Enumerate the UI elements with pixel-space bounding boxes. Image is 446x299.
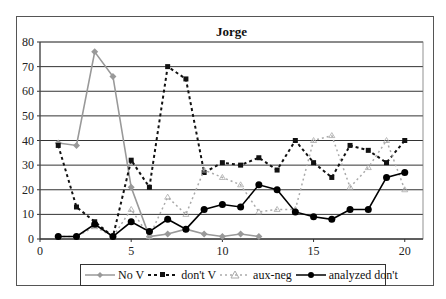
data-point-circle (109, 233, 116, 240)
legend-label: don't V (181, 268, 216, 283)
data-point-square (402, 138, 407, 143)
data-point-circle (164, 216, 171, 223)
data-point-diamond (164, 231, 171, 238)
black-circle-line-icon (296, 270, 326, 280)
data-point-circle (255, 181, 262, 188)
data-point-diamond (73, 142, 80, 149)
data-point-triangle (165, 194, 171, 199)
black-square-dashed-icon (148, 270, 178, 280)
data-point-circle (328, 216, 335, 223)
data-point-square (293, 138, 298, 143)
data-point-square (329, 175, 334, 180)
x-tick-label: 20 (399, 244, 411, 258)
chart-title: Jorge (216, 24, 247, 39)
data-point-circle (55, 233, 62, 240)
legend-label: No V (118, 268, 144, 283)
legend-item-aux-neg: aux-neg (220, 268, 292, 283)
x-tick-label: 5 (128, 244, 134, 258)
data-point-square (165, 64, 170, 69)
data-point-square (220, 160, 225, 165)
data-point-circle (237, 203, 244, 210)
line-chart: Jorge0102030405060708005101520 (0, 0, 446, 299)
y-tick-label: 20 (22, 183, 34, 197)
data-point-circle (401, 169, 408, 176)
data-point-square (129, 158, 134, 163)
data-point-circle (383, 174, 390, 181)
data-point-circle (182, 226, 189, 233)
data-point-circle (73, 233, 80, 240)
series-line (58, 136, 405, 237)
x-tick-label: 15 (308, 244, 320, 258)
y-tick-label: 10 (22, 207, 34, 221)
gray-triangle-dotted-icon (220, 270, 250, 280)
legend-item-no-v: No V (85, 268, 144, 283)
data-point-circle (201, 206, 208, 213)
data-point-circle (91, 221, 98, 228)
y-tick-label: 50 (22, 109, 34, 123)
data-point-circle (347, 206, 354, 213)
data-point-square (238, 163, 243, 168)
data-point-square (311, 160, 316, 165)
data-point-circle (365, 206, 372, 213)
data-point-square (183, 76, 188, 81)
y-tick-label: 70 (22, 60, 34, 74)
data-point-square (348, 143, 353, 148)
legend-label: aux-neg (253, 268, 292, 283)
y-tick-label: 40 (22, 134, 34, 148)
legend-item-dont-v: don't V (148, 268, 216, 283)
data-point-circle (310, 213, 317, 220)
x-tick-label: 10 (216, 244, 228, 258)
legend-label: analyzed don't (329, 268, 398, 283)
x-tick-label: 0 (37, 244, 43, 258)
series-line (58, 52, 259, 237)
data-point-square (275, 168, 280, 173)
chart-legend: No V don't V aux-neg analyzed don't (80, 264, 386, 286)
data-point-diamond (237, 231, 244, 238)
y-tick-label: 60 (22, 84, 34, 98)
y-tick-label: 30 (22, 158, 34, 172)
data-point-circle (274, 186, 281, 193)
data-point-diamond (201, 231, 208, 238)
data-point-square (74, 204, 79, 209)
legend-item-analyzed-dont: analyzed don't (296, 268, 398, 283)
gray-diamond-line-icon (85, 270, 115, 280)
data-point-square (56, 143, 61, 148)
data-point-square (256, 155, 261, 160)
y-tick-label: 80 (22, 35, 34, 49)
data-point-square (366, 148, 371, 153)
data-point-circle (146, 228, 153, 235)
data-point-square (147, 185, 152, 190)
data-point-circle (292, 208, 299, 215)
series-line (58, 173, 405, 237)
y-tick-label: 0 (28, 232, 34, 246)
data-point-circle (128, 218, 135, 225)
data-point-circle (219, 201, 226, 208)
data-point-square (384, 160, 389, 165)
